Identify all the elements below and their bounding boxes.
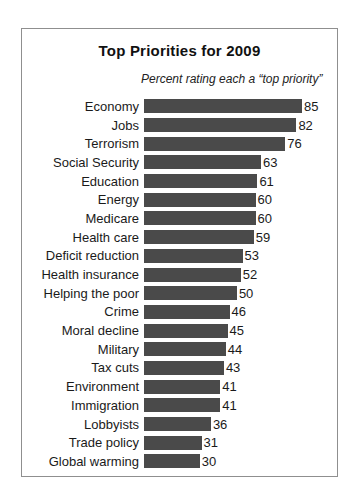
bar-area: 44 [144, 340, 337, 359]
category-label: Environment [22, 379, 139, 394]
bar-area: 50 [144, 284, 337, 303]
chart-row: Global warming30 [22, 452, 337, 471]
chart-subtitle: Percent rating each a “top priority” [141, 72, 305, 86]
value-label: 63 [263, 155, 277, 170]
bar [144, 155, 261, 169]
category-label: Jobs [22, 118, 139, 133]
bar-area: 41 [144, 377, 337, 396]
category-label: Global warming [22, 454, 139, 469]
chart-row: Health care59 [22, 228, 337, 247]
chart-title: Top Priorities for 2009 [22, 42, 337, 59]
category-label: Military [22, 342, 139, 357]
bar-area: 46 [144, 303, 337, 322]
chart-row: Terrorism76 [22, 134, 337, 153]
value-label: 52 [243, 267, 257, 282]
bar [144, 454, 200, 468]
bar-area: 52 [144, 265, 337, 284]
category-label: Moral decline [22, 323, 139, 338]
chart-row: Helping the poor50 [22, 284, 337, 303]
chart-row: Social Security63 [22, 153, 337, 172]
bar [144, 398, 220, 412]
bar-area: 59 [144, 228, 337, 247]
bar [144, 436, 202, 450]
bar [144, 211, 256, 225]
bar-area: 76 [144, 134, 337, 153]
bar-area: 61 [144, 172, 337, 191]
value-label: 41 [222, 398, 236, 413]
value-label: 60 [258, 211, 272, 226]
chart-row: Immigration41 [22, 396, 337, 415]
bar [144, 361, 224, 375]
chart-row: Military44 [22, 340, 337, 359]
value-label: 31 [204, 435, 218, 450]
bar [144, 118, 296, 132]
bar [144, 174, 257, 188]
category-label: Tax cuts [22, 360, 139, 375]
bar [144, 99, 302, 113]
value-label: 53 [245, 248, 259, 263]
category-label: Economy [22, 99, 139, 114]
bar-area: 30 [144, 452, 337, 471]
bar-area: 60 [144, 209, 337, 228]
category-label: Crime [22, 304, 139, 319]
bar-area: 36 [144, 415, 337, 434]
chart-row: Jobs82 [22, 116, 337, 135]
category-label: Medicare [22, 211, 139, 226]
bar [144, 305, 230, 319]
chart-row: Environment41 [22, 377, 337, 396]
chart-row: Economy85 [22, 97, 337, 116]
bar [144, 342, 226, 356]
chart-row: Energy60 [22, 190, 337, 209]
bar [144, 249, 243, 263]
chart-row: Deficit reduction53 [22, 247, 337, 266]
chart-row: Trade policy31 [22, 433, 337, 452]
chart-row: Medicare60 [22, 209, 337, 228]
chart-row: Education61 [22, 172, 337, 191]
bar-area: 43 [144, 359, 337, 378]
value-label: 45 [230, 323, 244, 338]
bar [144, 286, 237, 300]
value-label: 43 [226, 360, 240, 375]
bar [144, 268, 241, 282]
bar [144, 230, 254, 244]
value-label: 44 [228, 342, 242, 357]
category-label: Energy [22, 192, 139, 207]
value-label: 61 [259, 174, 273, 189]
bar-area: 45 [144, 321, 337, 340]
bar-area: 85 [144, 97, 337, 116]
bar [144, 137, 285, 151]
chart-row: Health insurance52 [22, 265, 337, 284]
category-label: Helping the poor [22, 286, 139, 301]
value-label: 36 [213, 417, 227, 432]
value-label: 85 [304, 99, 318, 114]
chart-row: Moral decline45 [22, 321, 337, 340]
value-label: 59 [256, 230, 270, 245]
chart-row: Crime46 [22, 303, 337, 322]
chart-rows: Economy85Jobs82Terrorism76Social Securit… [22, 97, 337, 471]
bar [144, 417, 211, 431]
value-label: 46 [232, 304, 246, 319]
chart-row: Tax cuts43 [22, 359, 337, 378]
bar-area: 60 [144, 190, 337, 209]
bar [144, 380, 220, 394]
bar-area: 41 [144, 396, 337, 415]
category-label: Deficit reduction [22, 248, 139, 263]
category-label: Terrorism [22, 136, 139, 151]
bar [144, 324, 228, 338]
category-label: Health care [22, 230, 139, 245]
bar-area: 82 [144, 116, 337, 135]
value-label: 50 [239, 286, 253, 301]
bar-area: 63 [144, 153, 337, 172]
category-label: Social Security [22, 155, 139, 170]
category-label: Trade policy [22, 435, 139, 450]
category-label: Lobbyists [22, 417, 139, 432]
chart-row: Lobbyists36 [22, 415, 337, 434]
value-label: 82 [298, 118, 312, 133]
bar-area: 53 [144, 247, 337, 266]
value-label: 76 [287, 136, 301, 151]
category-label: Health insurance [22, 267, 139, 282]
category-label: Immigration [22, 398, 139, 413]
value-label: 41 [222, 379, 236, 394]
bar [144, 193, 256, 207]
value-label: 30 [202, 454, 216, 469]
